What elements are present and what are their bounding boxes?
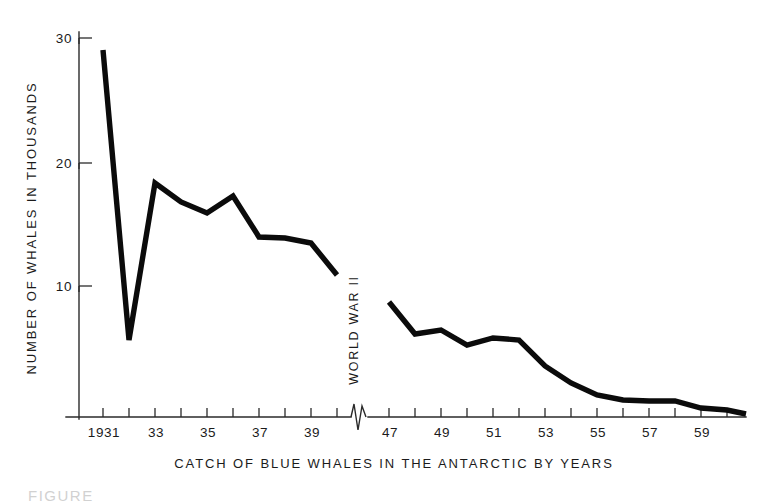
x-tick-label-33: 33	[148, 425, 164, 440]
x-tick-label-53: 53	[538, 425, 554, 440]
y-tick-label-10: 10	[56, 279, 72, 294]
y-axis-group: 30 20 10 NUMBER OF WHALES IN THOUSANDS	[24, 31, 92, 419]
x-tick-label-39: 39	[304, 425, 320, 440]
y-axis-title: NUMBER OF WHALES IN THOUSANDS	[24, 81, 39, 374]
blue-whale-catch-line-chart: 30 20 10 NUMBER OF WHALES IN THOUSANDS	[0, 0, 779, 501]
x-axis-group: 1931 33 35 37 39 47 49 51 53 55 57 59 CA…	[66, 404, 746, 471]
x-tick-label-47: 47	[382, 425, 398, 440]
x-tick-label-59: 59	[694, 425, 710, 440]
x-tick-label-55: 55	[590, 425, 606, 440]
x-tick-label-49: 49	[434, 425, 450, 440]
y-tick-label-30: 30	[56, 31, 72, 46]
x-tick-label-37: 37	[252, 425, 268, 440]
y-tick-label-20: 20	[56, 156, 72, 171]
world-war-ii-annotation: WORLD WAR II	[347, 275, 361, 385]
data-line-postwar	[389, 302, 746, 414]
data-line-prewar	[103, 50, 337, 340]
x-tick-label-57: 57	[642, 425, 658, 440]
figure-caption: FIGURE	[28, 487, 94, 501]
x-tick-label-35: 35	[200, 425, 216, 440]
x-tick-label-51: 51	[486, 425, 502, 440]
x-axis-title: CATCH OF BLUE WHALES IN THE ANTARCTIC BY…	[174, 456, 613, 471]
figure-root: 30 20 10 NUMBER OF WHALES IN THOUSANDS	[0, 0, 779, 501]
x-tick-label-1931: 1931	[88, 425, 120, 440]
axis-break-icon	[351, 404, 366, 430]
